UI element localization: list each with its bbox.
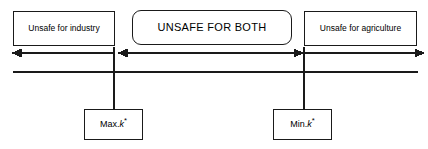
zone-arrow-both — [119, 49, 304, 57]
marker-box-max-k-star: Max.k* — [84, 109, 143, 140]
safety-zone-diagram: Unsafe for industry UNSAFE FOR BOTH Unsa… — [0, 0, 428, 149]
zone-arrow-industry — [13, 49, 115, 57]
marker-label-min-k-star: Min.k* — [290, 120, 315, 130]
arrowhead-left-both — [119, 49, 128, 57]
marker-superscript-max: * — [124, 116, 127, 125]
arrowhead-right-both — [294, 49, 303, 57]
marker-label-max-k-star: Max.k* — [100, 120, 127, 130]
marker-superscript-min: * — [312, 116, 315, 125]
marker-prefix-max: Max. — [100, 119, 120, 129]
axis-and-arrows-layer — [0, 0, 428, 149]
arrowhead-right-agriculture — [415, 49, 424, 57]
zone-arrow-agriculture — [305, 49, 424, 57]
marker-box-min-k-star: Min.k* — [273, 109, 332, 140]
marker-prefix-min: Min. — [290, 119, 307, 129]
arrowhead-left-industry — [13, 49, 22, 57]
